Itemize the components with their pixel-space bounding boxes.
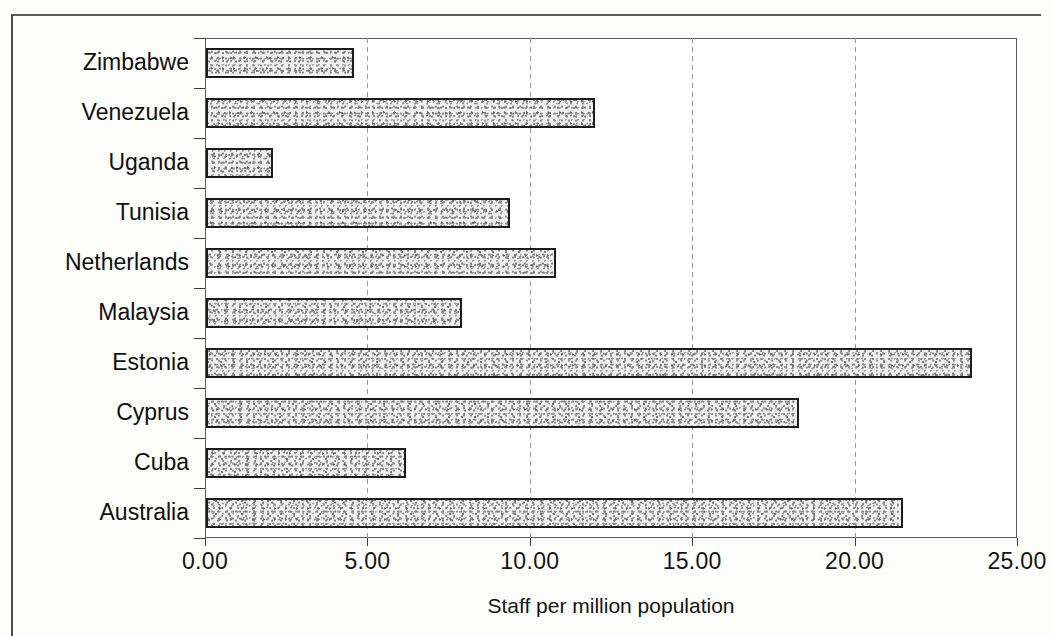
x-axis-tick	[530, 538, 531, 546]
x-axis-tick-label: 20.00	[795, 548, 915, 575]
bar	[206, 148, 273, 178]
y-axis-tick	[194, 338, 205, 339]
x-axis-tick	[205, 538, 206, 546]
y-axis-tick	[194, 38, 205, 39]
gridline	[692, 38, 693, 538]
bar	[206, 48, 354, 78]
category-label: Venezuela	[82, 101, 189, 124]
bar	[206, 298, 462, 328]
bar	[206, 498, 903, 528]
scanned-page: 0.005.0010.0015.0020.0025.00 ZimbabweVen…	[0, 0, 1051, 636]
y-axis-tick	[194, 238, 205, 239]
category-label: Australia	[100, 501, 189, 524]
category-label: Tunisia	[116, 201, 189, 224]
bar-chart: 0.005.0010.0015.0020.0025.00 ZimbabweVen…	[0, 0, 1051, 636]
x-axis-tick-label: 15.00	[632, 548, 752, 575]
y-axis-tick	[194, 188, 205, 189]
bar	[206, 398, 799, 428]
x-axis-title: Staff per million population	[205, 594, 1017, 618]
gridline	[855, 38, 856, 538]
category-label: Malaysia	[98, 301, 189, 324]
x-axis-tick-label: 25.00	[957, 548, 1051, 575]
category-label: Netherlands	[65, 251, 189, 274]
y-axis-tick	[194, 138, 205, 139]
y-axis-tick	[194, 88, 205, 89]
x-axis-tick-label: 0.00	[145, 548, 265, 575]
x-axis-tick	[855, 538, 856, 546]
category-label: Zimbabwe	[83, 51, 189, 74]
y-axis-tick	[194, 438, 205, 439]
category-label: Uganda	[108, 151, 189, 174]
bar	[206, 348, 972, 378]
x-axis-tick-label: 10.00	[470, 548, 590, 575]
y-axis-tick	[194, 288, 205, 289]
y-axis-tick	[194, 538, 205, 539]
category-label: Cuba	[134, 451, 189, 474]
x-axis-tick	[1017, 538, 1018, 546]
y-axis-tick	[194, 488, 205, 489]
bar	[206, 248, 556, 278]
bar	[206, 198, 510, 228]
bar	[206, 98, 595, 128]
category-label: Estonia	[112, 351, 189, 374]
x-axis-tick	[367, 538, 368, 546]
category-label: Cyprus	[116, 401, 189, 424]
bar	[206, 448, 406, 478]
x-axis-tick-label: 5.00	[307, 548, 427, 575]
y-axis-tick	[194, 388, 205, 389]
x-axis-tick	[692, 538, 693, 546]
